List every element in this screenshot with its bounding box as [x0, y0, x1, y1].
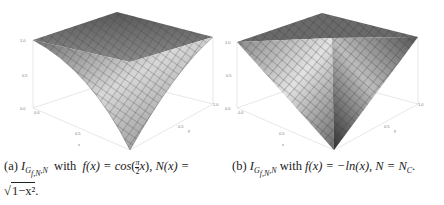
- z-tick-0-5: 0.5: [226, 73, 232, 78]
- x-tick-0: 0.0: [238, 110, 244, 115]
- math-subscript-tail: ,N: [269, 166, 276, 175]
- f-expression: f(x) = cos: [83, 159, 132, 173]
- surface-plot-a-svg: 1.0 0.5 0.0 0.0 0.5 1.0 x 0.0 0.5 y 1.0: [0, 0, 222, 150]
- y-tick-1: 1.0: [213, 102, 219, 107]
- caption-a: (a) IGf,N,N with f(x) = cos(π2x), N(x) =…: [4, 158, 218, 199]
- caption-b: (b) IGf,N,N with f(x) = −ln(x), N = NC.: [232, 158, 444, 182]
- caption-label: (b): [232, 159, 247, 173]
- z-tick-1: 1.0: [20, 38, 26, 43]
- n-expression: N = N: [375, 159, 406, 173]
- x-tick-0-5: 0.5: [279, 131, 285, 136]
- math-subsubscript: f,N: [31, 169, 41, 178]
- z-tick-0: 0.0: [225, 106, 231, 111]
- surface-plot-b: 1.0 0.5 0.0 0.0 0.5 x 1.0 0.0 0.5 y 1.0: [222, 0, 444, 150]
- f-expression-arg: x: [139, 159, 145, 173]
- x-axis-label: x: [282, 142, 284, 147]
- math-subsubscript: f,N: [260, 169, 270, 178]
- y-tick-0-5: 0.5: [384, 124, 390, 129]
- caption-label: (a): [4, 159, 18, 173]
- y-axis-label: y: [394, 128, 396, 133]
- z-tick-1: 1.0: [225, 40, 231, 45]
- x-tick-0: 0.0: [34, 110, 40, 115]
- surface-plot-a: 1.0 0.5 0.0 0.0 0.5 1.0 x 0.0 0.5 y 1.0: [0, 0, 222, 150]
- y-axis-label: y: [188, 128, 190, 133]
- n-expression: N(x) =: [155, 159, 189, 173]
- caption-end: .: [35, 184, 38, 198]
- caption-with: with: [54, 159, 76, 173]
- sqrt-content: 1−x²: [11, 182, 35, 199]
- x-axis-label: x: [78, 142, 80, 147]
- x-tick-0-5: 0.5: [75, 131, 81, 136]
- y-tick-0-5: 0.5: [178, 124, 184, 129]
- math-subscript-tail: ,N: [41, 166, 48, 175]
- caption-with: with: [280, 159, 302, 173]
- y-tick-1: 1.0: [418, 102, 424, 107]
- caption-end: .: [412, 159, 415, 173]
- z-tick-0: 0.0: [20, 106, 26, 111]
- z-tick-0-5: 0.5: [22, 73, 28, 78]
- f-expression: f(x) = −ln(x),: [305, 159, 372, 173]
- surface-plot-b-svg: 1.0 0.5 0.0 0.0 0.5 x 1.0 0.0 0.5 y 1.0: [222, 0, 444, 150]
